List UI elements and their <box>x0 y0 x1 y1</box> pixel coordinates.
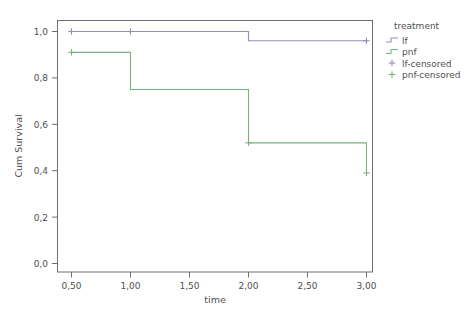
legend-label: lf <box>402 36 409 46</box>
x-tick-label: 1,00 <box>120 281 140 291</box>
x-tick-label: 2,00 <box>238 281 258 291</box>
x-tick-label: 1,50 <box>179 281 199 291</box>
survival-chart: 1,0 0,8 0,6 0,4 0,2 0,0 Cum Survival 0,5… <box>0 0 475 311</box>
y-tick-label: 0,0 <box>34 259 49 269</box>
y-axis-title: Cum Survival <box>13 114 24 177</box>
y-tick-label: 0,8 <box>34 73 49 83</box>
y-tick-label: 0,2 <box>34 213 48 223</box>
y-tick-label: 0,4 <box>34 166 49 176</box>
legend-label: pnf <box>402 47 417 57</box>
x-tick-label: 3,00 <box>356 281 376 291</box>
legend-title: treatment <box>394 21 440 31</box>
legend-label: pnf-censored <box>402 70 460 80</box>
x-axis-title: time <box>204 294 226 305</box>
y-tick-label: 1,0 <box>34 27 49 37</box>
x-tick-label: 2,50 <box>297 281 317 291</box>
y-tick-label: 0,6 <box>34 120 49 130</box>
kaplan-meier-plot: 1,0 0,8 0,6 0,4 0,2 0,0 Cum Survival 0,5… <box>0 0 475 311</box>
x-tick-label: 0,50 <box>61 281 81 291</box>
legend-label: lf-censored <box>402 59 452 69</box>
